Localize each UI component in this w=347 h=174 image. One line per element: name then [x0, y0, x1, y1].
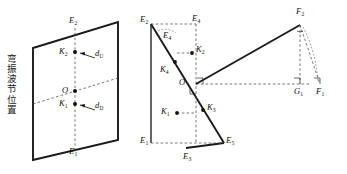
node-dot-center: [73, 89, 77, 93]
label-mid-origin: O: [179, 78, 185, 87]
label-mid-k1: K1: [161, 107, 169, 116]
edge-e3-e5: [186, 143, 224, 148]
node-dot-k3: [201, 108, 205, 112]
label-left-k1: K1: [59, 99, 67, 108]
label-left-k2: K2: [59, 47, 67, 56]
label-mid-e5: E5: [226, 136, 234, 145]
label-mid-e1: E1: [140, 136, 148, 145]
node-dot-k1: [73, 102, 77, 106]
node-dot-k1-mid: [175, 111, 179, 115]
label-left-du: dU: [95, 49, 103, 58]
edge-origin-to-f2: [196, 25, 300, 84]
label-mid-e3: E3: [183, 152, 191, 161]
edge-f2-f1: [300, 25, 320, 84]
node-dot-k2-mid: [190, 51, 194, 55]
arc-g1-f1: [303, 27, 318, 82]
label-mid-k2: K2: [196, 45, 204, 54]
edge-e2-e5: [151, 24, 224, 143]
label-mid-e4-corner: E4: [192, 14, 200, 23]
label-right-f1: F1: [316, 87, 324, 96]
label-left-dd: dD: [95, 101, 103, 110]
label-mid-k4: K4: [160, 65, 168, 74]
label-right-f2: F2: [296, 7, 304, 16]
left-parallelogram-group: [33, 22, 118, 160]
node-dot-k2: [73, 50, 77, 54]
label-left-origin: O: [62, 86, 68, 95]
right-angle-g1: [294, 78, 300, 84]
label-mid-e4-line: E4: [163, 31, 171, 40]
caption-char-5: 置: [4, 105, 20, 115]
label-left-e1: E1: [69, 147, 77, 156]
caption-bending-node-position: 弯 振 波 节 位 置: [4, 54, 20, 115]
label-left-e2: E2: [69, 16, 77, 25]
right-triangle-group: [294, 25, 320, 84]
label-mid-k3: K3: [207, 103, 215, 112]
middle-projection-group: [151, 24, 310, 148]
arrowhead-dd: [80, 104, 85, 108]
figure-canvas: 弯 振 波 节 位 置 E2 E1 O K2 K1 dU dD E2 E4 E4…: [0, 0, 347, 174]
label-mid-e2: E2: [140, 15, 148, 24]
label-right-g1: G1: [294, 87, 303, 96]
arrowhead-du: [80, 52, 85, 56]
node-dot-k4: [173, 60, 177, 64]
